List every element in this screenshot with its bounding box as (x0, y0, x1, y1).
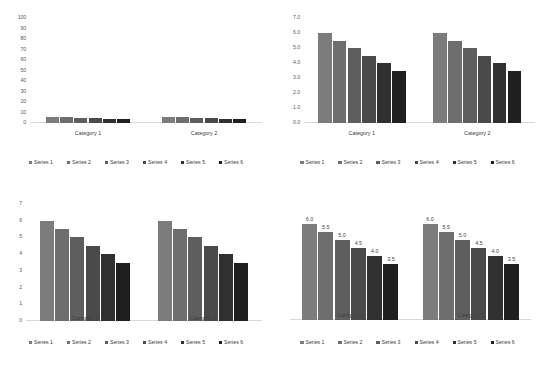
bar[interactable] (205, 118, 218, 123)
bar[interactable] (508, 71, 522, 124)
bar[interactable] (46, 117, 59, 123)
bar[interactable] (40, 221, 54, 321)
legend-item[interactable]: Series 3 (376, 340, 400, 345)
bar[interactable] (433, 33, 447, 123)
bar[interactable] (335, 240, 350, 320)
bar-value-label: 4.5 (475, 241, 483, 246)
bar[interactable] (333, 41, 347, 124)
legend-item[interactable]: Series 2 (338, 340, 362, 345)
bar-slot (70, 204, 84, 321)
bar[interactable] (493, 63, 507, 123)
bar[interactable] (439, 232, 454, 320)
bar[interactable] (117, 119, 130, 123)
bar[interactable] (234, 263, 248, 322)
bar[interactable] (351, 248, 366, 320)
bar-slot (40, 204, 54, 321)
legend-item[interactable]: Series 4 (415, 340, 439, 345)
legend-item[interactable]: Series 5 (453, 340, 477, 345)
bar[interactable] (471, 248, 486, 320)
legend-swatch-icon (415, 341, 418, 344)
bar[interactable] (383, 264, 398, 320)
bar[interactable] (455, 240, 470, 320)
bar[interactable] (70, 237, 84, 321)
bar-group: 6.05.55.04.54.03.5 (411, 208, 532, 320)
bar[interactable] (219, 119, 232, 123)
legend-label: Series 3 (110, 340, 129, 345)
bar[interactable] (448, 41, 462, 124)
legend-item[interactable]: Series 2 (338, 160, 362, 165)
legend-swatch-icon (376, 341, 379, 344)
bar[interactable] (101, 254, 115, 321)
legend-item[interactable]: Series 4 (143, 340, 167, 345)
legend-item[interactable]: Series 4 (415, 160, 439, 165)
legend-item[interactable]: Series 1 (300, 160, 324, 165)
bar[interactable] (188, 237, 202, 321)
legend-item[interactable]: Series 5 (181, 340, 205, 345)
category-label: Category 1 (290, 313, 411, 318)
legend-label: Series 5 (458, 160, 477, 165)
bar-group: 6.05.55.04.54.03.5 (290, 208, 411, 320)
y-axis-tick-label: 0 (23, 120, 26, 125)
legend-swatch-icon (491, 341, 494, 344)
bar[interactable] (478, 56, 492, 124)
bar[interactable] (116, 263, 130, 322)
bar[interactable] (348, 48, 362, 123)
bar[interactable] (318, 33, 332, 123)
y-axis-tick-label: 4 (19, 252, 22, 257)
legend-item[interactable]: Series 3 (105, 340, 129, 345)
legend-label: Series 3 (381, 160, 400, 165)
legend-item[interactable]: Series 1 (29, 340, 53, 345)
legend: Series 1Series 2Series 3Series 4Series 5… (272, 160, 543, 165)
bar[interactable] (488, 256, 503, 320)
legend-item[interactable]: Series 6 (491, 340, 515, 345)
legend-item[interactable]: Series 1 (29, 160, 53, 165)
bar[interactable] (233, 119, 246, 123)
legend-item[interactable]: Series 3 (376, 160, 400, 165)
legend-item[interactable]: Series 5 (181, 160, 205, 165)
legend: Series 1Series 2Series 3Series 4Series 5… (272, 340, 543, 345)
bar[interactable] (504, 264, 519, 320)
category-axis-labels: Category 1Category 2 (290, 313, 531, 318)
legend-label: Series 5 (186, 160, 205, 165)
bar[interactable] (60, 117, 73, 123)
bar[interactable] (55, 229, 69, 321)
chart-top-left: 0102030405060708090100Category 1Category… (0, 0, 272, 190)
bar[interactable] (86, 246, 100, 321)
legend-label: Series 1 (305, 340, 324, 345)
bar[interactable] (463, 48, 477, 123)
legend-item[interactable]: Series 5 (453, 160, 477, 165)
bar[interactable] (74, 118, 87, 123)
bar[interactable] (204, 246, 218, 321)
legend-item[interactable]: Series 2 (67, 160, 91, 165)
bar[interactable] (377, 63, 391, 123)
legend-item[interactable]: Series 2 (67, 340, 91, 345)
y-axis-tick-label: 3.0 (293, 75, 300, 80)
bar[interactable] (103, 119, 116, 123)
bar[interactable] (362, 56, 376, 124)
bar[interactable] (219, 254, 233, 321)
legend-swatch-icon (491, 161, 494, 164)
bar[interactable] (423, 224, 438, 320)
bar[interactable] (318, 232, 333, 320)
bar[interactable] (176, 117, 189, 123)
legend-item[interactable]: Series 6 (219, 160, 243, 165)
bar[interactable] (158, 221, 172, 321)
bar[interactable] (89, 118, 102, 123)
legend-item[interactable]: Series 3 (105, 160, 129, 165)
bar-value-label: 3.5 (387, 257, 395, 262)
legend-item[interactable]: Series 4 (143, 160, 167, 165)
bar-slot (205, 18, 218, 123)
legend: Series 1Series 2Series 3Series 4Series 5… (0, 160, 272, 165)
bar[interactable] (302, 224, 317, 320)
bar[interactable] (367, 256, 382, 320)
legend-label: Series 2 (72, 340, 91, 345)
bar-slot (478, 18, 492, 123)
bar[interactable] (173, 229, 187, 321)
y-axis-tick-label: 0.0 (293, 120, 300, 125)
legend-item[interactable]: Series 1 (300, 340, 324, 345)
legend-item[interactable]: Series 6 (219, 340, 243, 345)
bar[interactable] (190, 118, 203, 123)
bar[interactable] (162, 117, 175, 123)
bar[interactable] (392, 71, 406, 124)
legend-item[interactable]: Series 6 (491, 160, 515, 165)
